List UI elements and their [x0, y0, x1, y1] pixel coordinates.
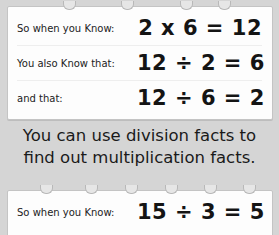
fact-equation: 15 ÷ 3 = 5 [137, 200, 265, 224]
binder-ring-icon [125, 185, 138, 194]
binder-ring-icon [243, 185, 256, 194]
fact-equation: 2 x 6 = 12 [137, 16, 262, 40]
binder-ring-icon [204, 185, 217, 194]
fact-label: So when you Know: [17, 23, 137, 34]
binder-ring-icon [40, 185, 53, 194]
fact-label: and that: [17, 93, 137, 104]
fact-row: So when you Know: 15 ÷ 3 = 5 [17, 195, 262, 229]
notepad-card-1: So when you Know: 2 x 6 = 12 You also Kn… [7, 6, 273, 120]
binder-ring-icon [165, 185, 178, 194]
caption-line-2: find out multiplication facts. [0, 147, 279, 169]
notepad-card-2: So when you Know: 15 ÷ 3 = 5 [7, 190, 273, 235]
binder-ring-icon [85, 185, 98, 194]
fact-row: and that: 12 ÷ 6 = 2 [17, 81, 262, 115]
fact-row: So when you Know: 2 x 6 = 12 [17, 11, 262, 46]
binder-ring-icon [121, 1, 134, 10]
fact-equation: 12 ÷ 6 = 2 [137, 86, 265, 110]
fact-label: So when you Know: [17, 207, 137, 218]
fact-label: You also Know that: [17, 58, 137, 69]
caption-line-1: You can use division facts to [0, 125, 279, 147]
binder-ring-icon [180, 1, 193, 10]
fact-equation: 12 ÷ 2 = 6 [137, 51, 265, 75]
caption-text: You can use division facts to find out m… [0, 125, 279, 169]
binder-ring-icon [63, 1, 76, 10]
binder-ring-icon [218, 1, 231, 10]
fact-row: You also Know that: 12 ÷ 2 = 6 [17, 46, 262, 81]
